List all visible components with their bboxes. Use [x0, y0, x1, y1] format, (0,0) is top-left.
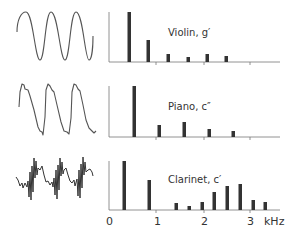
- piano-ticks: [156, 137, 250, 140]
- violin-label: Violin, g′: [168, 27, 211, 38]
- piano-waveform: [19, 84, 96, 135]
- x-tick-3: 3: [247, 215, 254, 228]
- piano-label: Piano, c″: [168, 101, 211, 112]
- panel-clarinet: Clarinet, c′ 0 1 2 3 kHz: [16, 157, 285, 228]
- violin-ticks: [156, 62, 250, 65]
- panel-violin: Violin, g′: [17, 12, 280, 65]
- instrument-spectra-figure: Violin, g′ Piano, c″: [0, 0, 296, 238]
- x-tick-2: 2: [201, 215, 208, 228]
- clarinet-bars: [123, 161, 268, 210]
- clarinet-waveform: [16, 157, 93, 200]
- violin-waveform: [17, 12, 93, 60]
- x-tick-labels: 0 1 2 3 kHz: [106, 215, 285, 228]
- panel-piano: Piano, c″: [19, 84, 280, 140]
- clarinet-ticks: [156, 210, 250, 213]
- clarinet-label: Clarinet, c′: [168, 174, 222, 185]
- x-tick-0: 0: [106, 215, 113, 228]
- x-axis-unit: kHz: [264, 215, 285, 228]
- x-tick-1: 1: [154, 215, 161, 228]
